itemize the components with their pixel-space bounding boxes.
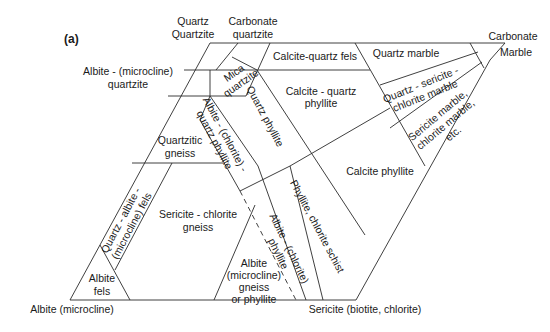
field-calcite-quartz-phyllite-1: Calcite - quartz (286, 85, 357, 97)
corner-quartz: Quartz (177, 15, 209, 27)
panel-label: (a) (64, 32, 79, 46)
corner-carbonate-quartzite: quartzite (233, 28, 273, 40)
corner-marble: Marble (500, 46, 532, 58)
field-albite-gneiss-4: or phyllite (232, 293, 277, 305)
field-albite-fels-2: fels (94, 285, 110, 297)
side-albite-microcline: Albite - (microcline) (83, 65, 173, 77)
corner-quartzite: Quartzite (172, 28, 215, 40)
field-quartz-marble: Quartz marble (373, 47, 440, 59)
field-quartzitic-gneiss-2: gneiss (165, 147, 195, 159)
field-albite-gneiss-3: gneiss (239, 281, 269, 293)
field-sericite-chlorite-gneiss-1: Sericite - chlorite (159, 208, 237, 220)
field-text: Quartz phyllite (244, 84, 286, 149)
boundary (470, 43, 484, 68)
field-albite-fels-1: Albite (89, 272, 115, 284)
field-sericite-chlorite-gneiss-2: gneiss (183, 221, 213, 233)
field-quartz-phyllite: Quartz phyllite (244, 84, 286, 149)
boundary (290, 108, 390, 166)
corner-carbonate: Carbonate (228, 15, 277, 27)
field-calcite-quartz-fels: Calcite-quartz fels (273, 50, 357, 62)
side-quartzite: quartzite (108, 78, 148, 90)
field-calcite-quartz-phyllite-2: phyllite (305, 97, 338, 109)
field-quartzitic-gneiss-1: Quartzitic (158, 134, 202, 146)
rock-classification-diagram: (a) (0, 0, 550, 332)
field-calcite-phyllite: Calcite phyllite (346, 165, 414, 177)
corner-sericite: Sericite (biotite, chlorite) (309, 303, 422, 315)
field-albite-gneiss-1: Albite (241, 257, 267, 269)
boundary (240, 166, 290, 191)
corner-albite-microcline: Albite (microcline) (30, 303, 113, 315)
corner-carbonate-right: Carbonate (488, 30, 537, 42)
field-albite-gneiss-2: (microcline) (227, 269, 281, 281)
